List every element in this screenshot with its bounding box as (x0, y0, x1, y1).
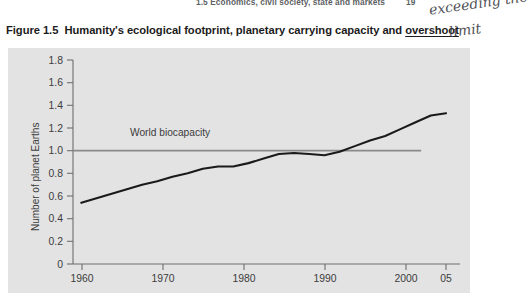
running-head: 1.5 Economics, civil society, state and … (0, 0, 529, 9)
x-tick-label-2000: 2000 (394, 273, 417, 284)
x-tick-label-1980: 1980 (232, 273, 255, 284)
x-tick-label-1990: 1990 (313, 273, 336, 284)
x-axis-ticks (82, 264, 446, 270)
world-biocapacity-label: World biocapacity (130, 127, 211, 138)
ecological-footprint-chart: Number of planet Earths 0 0.2 0.4 0.6 0.… (8, 48, 470, 293)
y-axis-title: Number of planet Earths (30, 123, 41, 231)
y-tick-label-0.6: 0.6 (49, 191, 64, 202)
y-tick-label-1.6: 1.6 (49, 77, 64, 88)
y-tick-label-1.2: 1.2 (49, 123, 64, 134)
y-tick-label-0.8: 0.8 (49, 168, 64, 179)
y-axis-ticks (67, 60, 73, 264)
y-tick-label-0: 0 (57, 259, 63, 270)
y-tick-label-0.2: 0.2 (49, 236, 64, 247)
figure-caption: Figure 1.5 Humanity's ecological footpri… (6, 24, 426, 36)
y-tick-label-1.0: 1.0 (49, 145, 64, 156)
x-tick-label-2005: 05 (440, 273, 452, 284)
running-head-page-number: 19 (406, 0, 415, 7)
x-tick-label-1960: 1960 (70, 273, 93, 284)
x-axis-tick-labels: 1960 1970 1980 1990 2000 05 (70, 273, 452, 284)
y-tick-label-1.8: 1.8 (49, 55, 64, 66)
caption-text: Humanity's ecological footprint, planeta… (64, 24, 405, 36)
y-tick-label-0.4: 0.4 (49, 213, 64, 224)
caption-underlined-term: overshoot (405, 24, 459, 36)
y-axis-tick-labels: 0 0.2 0.4 0.6 0.8 1.0 1.2 1.4 1.6 1.8 (49, 55, 64, 270)
y-tick-label-1.4: 1.4 (49, 100, 64, 111)
running-head-section: 1.5 Economics, civil society, state and … (196, 0, 385, 7)
figure-number: Figure 1.5 (6, 24, 58, 36)
x-tick-label-1970: 1970 (151, 273, 174, 284)
chart-panel: Number of planet Earths 0 0.2 0.4 0.6 0.… (8, 48, 470, 293)
